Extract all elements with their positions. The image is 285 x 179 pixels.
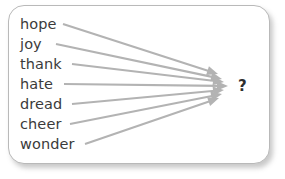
word-label-dread: dread [20, 97, 62, 112]
word-label-hate: hate [20, 77, 53, 92]
question-mark-label: ? [238, 79, 247, 94]
diagram-canvas: hopejoythankhatedreadcheerwonder ? [0, 0, 285, 179]
word-label-wonder: wonder [20, 137, 75, 152]
word-label-thank: thank [20, 57, 62, 72]
word-label-joy: joy [20, 37, 42, 52]
word-label-hope: hope [20, 17, 57, 32]
word-label-cheer: cheer [20, 117, 61, 132]
